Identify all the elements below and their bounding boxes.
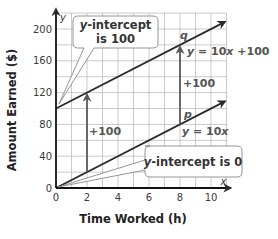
series-q-label: q — [180, 29, 188, 42]
y-tick-label: 160 — [33, 55, 52, 66]
y-tick-label: 80 — [39, 119, 52, 130]
plus-100-right: +100 — [183, 77, 216, 90]
x-tick-label: 10 — [205, 192, 218, 203]
callout-intercept-100-line1: y-intercept — [80, 18, 152, 32]
chart: xy 024681004080120160200 y-intercept is … — [0, 0, 278, 239]
plus-100-left: +100 — [89, 125, 122, 138]
y-tick-label: 120 — [33, 87, 52, 98]
x-tick-label: 4 — [115, 192, 121, 203]
series-q-equation: y = 10x +100 — [187, 45, 270, 58]
y-tick-label: 40 — [39, 151, 52, 162]
callout-intercept-100: y-intercept is 100 — [59, 16, 158, 104]
y-tick-label: 0 — [46, 183, 52, 194]
x-axis-title: Time Worked (h) — [79, 212, 187, 226]
x-axis-letter: x — [220, 176, 227, 187]
series-p-equation: y = 10x — [182, 125, 229, 138]
x-tick-label: 0 — [53, 192, 59, 203]
y-tick-label: 200 — [33, 24, 52, 35]
callout-intercept-100-line2: is 100 — [96, 32, 135, 46]
y-axis-letter: y — [59, 12, 67, 23]
y-axis-title: Amount Earned ($) — [5, 49, 19, 172]
callout-intercept-0: y-intercept is 0 — [58, 146, 242, 187]
x-tick-label: 2 — [84, 192, 90, 203]
series-p-label: p — [183, 108, 192, 121]
x-tick-label: 8 — [177, 192, 183, 203]
callout-intercept-0-text: y-intercept is 0 — [144, 155, 243, 169]
x-tick-label: 6 — [146, 192, 152, 203]
